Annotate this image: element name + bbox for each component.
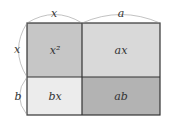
cell-label-x-squared: x² [50,44,61,57]
label-side-x: x [14,43,21,56]
label-top-x: x [51,7,58,20]
cell-label-bx: bx [48,90,62,103]
area-diagram: x a x b x² ax bx ab [0,0,170,122]
label-top-a: a [118,7,125,20]
cell-label-ab: ab [114,90,128,103]
cell-label-ax: ax [115,44,129,57]
label-side-b: b [14,90,21,103]
